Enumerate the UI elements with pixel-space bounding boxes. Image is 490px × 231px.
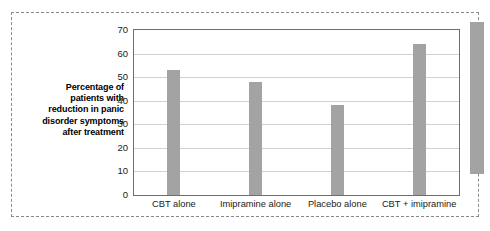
y-axis-label-line-3: reduction in panic <box>18 104 124 115</box>
gridline <box>134 54 459 55</box>
y-tick-label: 40 <box>104 96 128 106</box>
gridline <box>134 171 459 172</box>
gridline <box>134 148 459 149</box>
x-tick-label: CBT + imipramine <box>382 199 456 209</box>
chart-figure: Percentage of patients with reduction in… <box>0 0 490 231</box>
bar <box>413 44 426 195</box>
y-tick-label: 20 <box>104 143 128 153</box>
plot-area: 010203040506070 CBT aloneImipramine alon… <box>133 29 460 196</box>
x-tick-label: Placebo alone <box>308 199 367 209</box>
y-tick-label: 10 <box>104 166 128 176</box>
gridline <box>134 77 459 78</box>
y-tick-label: 50 <box>104 72 128 82</box>
y-axis-label: Percentage of patients with reduction in… <box>18 82 124 138</box>
adjacent-figure-partial-bar <box>470 22 484 174</box>
bar <box>167 70 180 195</box>
x-tick-label: Imipramine alone <box>220 199 291 209</box>
x-tick-label: CBT alone <box>152 199 196 209</box>
y-tick-label: 70 <box>104 25 128 35</box>
bar <box>249 82 262 195</box>
y-tick-label: 60 <box>104 49 128 59</box>
bar <box>331 105 344 195</box>
y-tick-label: 0 <box>104 190 128 200</box>
gridline <box>134 124 459 125</box>
y-tick-label: 30 <box>104 119 128 129</box>
gridline <box>134 101 459 102</box>
y-axis-label-line-1: Percentage of <box>18 82 124 93</box>
